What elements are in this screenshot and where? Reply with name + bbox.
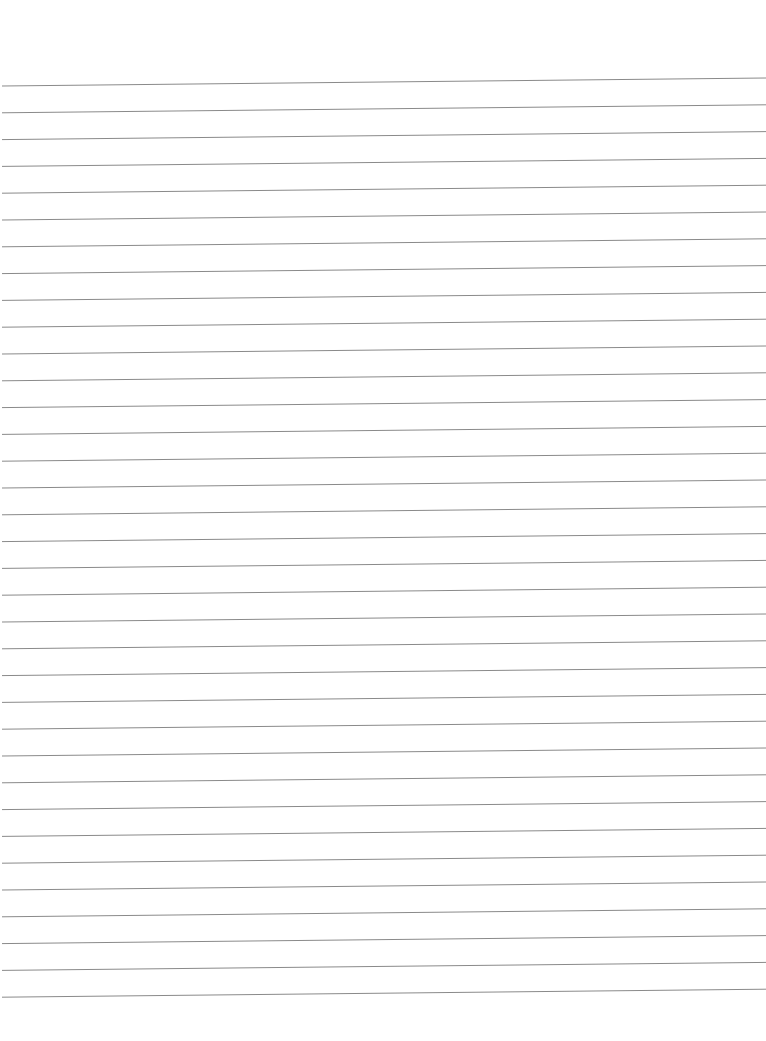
ruled-line	[2, 909, 766, 917]
ruled-line	[2, 668, 766, 676]
ruled-line	[2, 507, 766, 515]
ruled-line	[2, 882, 766, 890]
ruled-line	[2, 694, 766, 702]
ruled-line	[2, 373, 766, 381]
ruled-line	[2, 855, 766, 863]
ruled-line	[2, 400, 766, 408]
ruled-line	[2, 158, 766, 166]
ruled-line	[2, 132, 766, 140]
ruled-line	[2, 828, 766, 836]
ruled-line	[2, 78, 766, 86]
ruled-line	[2, 185, 766, 193]
ruled-line	[2, 292, 766, 300]
ruled-line	[2, 775, 766, 783]
ruled-line	[2, 614, 766, 622]
ruled-line	[2, 105, 766, 113]
ruled-line	[2, 426, 766, 434]
ruled-line	[2, 721, 766, 729]
ruled-lines	[0, 0, 766, 1041]
ruled-line	[2, 962, 766, 970]
ruled-line	[2, 239, 766, 247]
ruled-line	[2, 560, 766, 568]
ruled-line	[2, 453, 766, 461]
ruled-line	[2, 212, 766, 220]
ruled-line	[2, 346, 766, 354]
ruled-line	[2, 319, 766, 327]
ruled-line	[2, 802, 766, 810]
ruled-line	[2, 641, 766, 649]
ruled-line	[2, 989, 766, 997]
ruled-line	[2, 534, 766, 542]
ruled-line	[2, 936, 766, 944]
ruled-line	[2, 587, 766, 595]
ruled-line	[2, 480, 766, 488]
lined-paper-page	[0, 0, 766, 1041]
ruled-line	[2, 266, 766, 274]
ruled-line	[2, 748, 766, 756]
